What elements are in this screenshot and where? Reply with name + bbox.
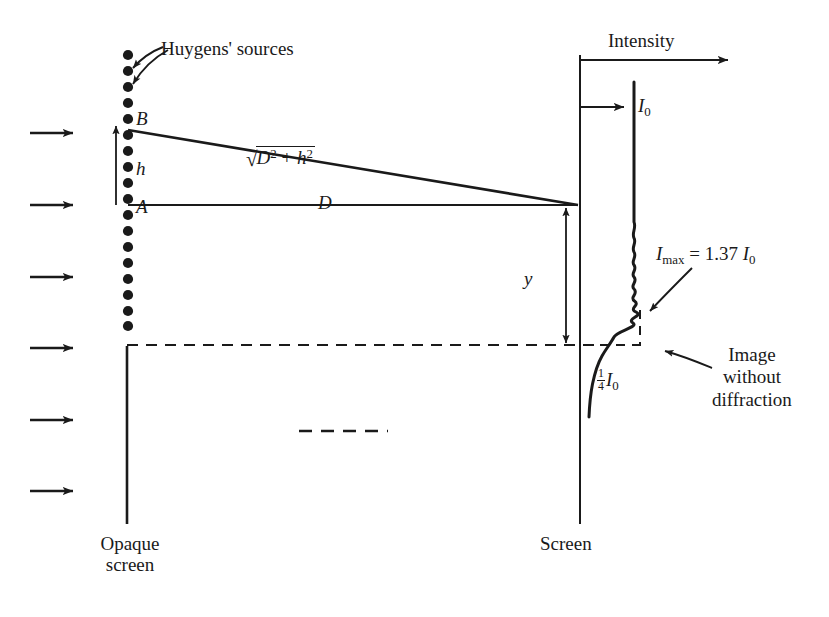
intensity-axis-label: Intensity (608, 30, 675, 51)
hypotenuse-label: √D2 + h2 (246, 147, 315, 171)
huygens-source-dot (123, 274, 133, 284)
fresnel-intensity-curve (589, 82, 638, 417)
imax-value-subscript: 0 (749, 252, 755, 267)
screen-label: Screen (540, 533, 592, 554)
I0-subscript: 0 (644, 104, 650, 119)
point-A-label: A (136, 196, 148, 217)
image-without-diffraction-line1: Image (728, 344, 775, 365)
huygens-source-dot (123, 82, 133, 92)
imax-pointer-arrow (650, 268, 692, 311)
image-without-diffraction-line3: diffraction (712, 389, 792, 410)
quarter-I0-label: 14I0 (597, 368, 619, 394)
huygens-source-dot (123, 306, 133, 316)
huygens-source-dots (123, 50, 133, 331)
huygens-source-dot (123, 178, 133, 188)
offset-y-label: y (524, 268, 532, 289)
imax-equation: = 1.37 (685, 243, 743, 264)
huygens-source-dot (123, 162, 133, 172)
huygens-source-dot (123, 258, 133, 268)
huygens-source-dot (123, 210, 133, 220)
huygens-source-dot (123, 98, 133, 108)
quarter-I0-subscript: 0 (612, 378, 618, 393)
radicand-plus: + (277, 147, 297, 168)
image-without-diffraction-line2: without (723, 366, 781, 387)
gap-h-label: h (136, 158, 146, 179)
huygens-source-dot (123, 194, 133, 204)
quarter-denominator: 4 (597, 380, 605, 393)
opaque-screen-label-line1: Opaque (100, 533, 159, 554)
huygens-source-dot (123, 242, 133, 252)
radicand-D: D (257, 147, 271, 168)
huygens-source-dot (123, 290, 133, 300)
image-without-diffraction-label: Image without diffraction (712, 344, 792, 411)
incoming-wave-arrows (30, 133, 73, 491)
radicand-h: h (297, 147, 307, 168)
quarter-numerator: 1 (597, 368, 605, 380)
fresnel-diffraction-figure: Huygens' sources Intensity Screen Opaque… (0, 0, 829, 617)
huygens-source-dot (123, 114, 133, 124)
radicand-h-exponent: 2 (306, 146, 312, 161)
ray-B-to-screen (128, 130, 578, 205)
opaque-screen-label: Opaque screen (78, 533, 182, 576)
imax-label: Imax = 1.37 I0 (656, 243, 756, 267)
huygens-source-dot (123, 50, 133, 60)
image-without-diffraction-pointer-arrow (665, 351, 712, 368)
huygens-source-dot (123, 66, 133, 76)
diagram-canvas (0, 0, 829, 617)
opaque-screen-label-line2: screen (106, 554, 155, 575)
huygens-sources-label: Huygens' sources (161, 38, 294, 59)
imax-subscript: max (662, 252, 684, 267)
huygens-source-dot (123, 226, 133, 236)
huygens-source-dot (123, 321, 133, 331)
sqrt-expression: √D2 + h2 (246, 147, 315, 171)
point-B-label: B (136, 108, 148, 129)
I0-label: I0 (638, 95, 651, 119)
radicand: D2 + h2 (256, 146, 315, 168)
quarter-fraction: 14 (597, 368, 605, 393)
huygens-source-dot (123, 146, 133, 156)
distance-D-label: D (318, 192, 332, 213)
